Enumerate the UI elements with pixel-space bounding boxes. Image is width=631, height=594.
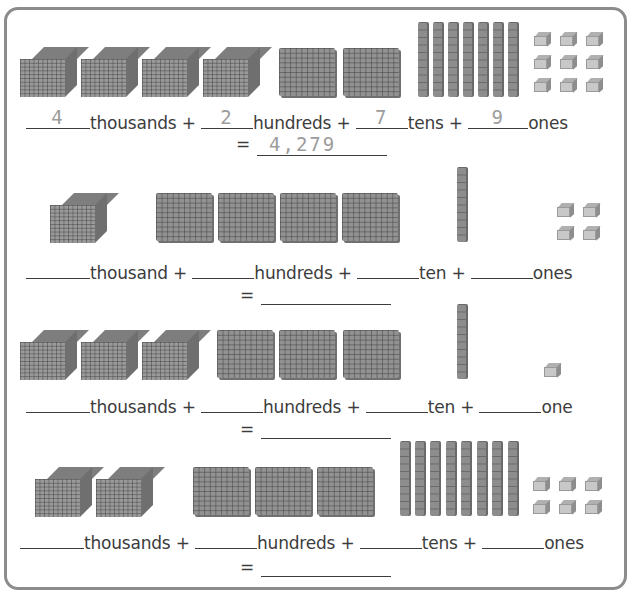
equals-sign: = (240, 419, 254, 439)
hundreds-answer-field[interactable] (195, 530, 257, 549)
ten-rod-icon (418, 22, 427, 97)
equals-sign: = (240, 285, 254, 305)
ones-answer-field[interactable]: 9 (468, 110, 528, 129)
ten-rod-icon (448, 22, 457, 97)
thousand-cube-icon (142, 47, 200, 97)
unit-cube-icon (534, 32, 551, 46)
thousands-label: thousands + (90, 113, 196, 133)
hundreds-label: hundreds + (257, 533, 355, 553)
unit-cube-icon (559, 500, 576, 514)
tens-label: tens + (422, 533, 477, 553)
ten-rod-icon (400, 441, 409, 516)
thousands-label: thousand + (90, 263, 187, 283)
total-answer-field[interactable]: 4,279 (257, 155, 387, 156)
hundred-flat-icon (279, 48, 335, 96)
hundred-flat-icon (255, 467, 311, 515)
ones-label: ones (528, 113, 568, 133)
unit-cube-icon (534, 55, 551, 69)
tens-answer-field[interactable] (366, 394, 428, 413)
thousand-cube-icon (20, 47, 78, 97)
tens-label: ten + (419, 263, 466, 283)
hundreds-label: hundreds + (254, 263, 352, 283)
ones-answer-field[interactable] (471, 260, 533, 279)
unit-cube-icon (583, 203, 600, 217)
tens-label: ten + (428, 397, 475, 417)
thousand-cube-icon (203, 47, 261, 97)
ones-label: ones (533, 263, 573, 283)
thousand-cube-icon (50, 193, 108, 243)
hundreds-label: hundreds + (253, 113, 351, 133)
thousand-cube-icon (96, 467, 154, 517)
ten-rod-icon (415, 441, 424, 516)
unit-cube-icon (585, 500, 602, 514)
unit-cube-icon (533, 500, 550, 514)
thousands-label: thousands + (84, 533, 190, 553)
row-3-equation: thousands + hundreds + ten + one (26, 394, 573, 417)
equals-sign: = (236, 134, 250, 154)
unit-cube-icon (560, 78, 577, 92)
ten-rod-icon (463, 22, 472, 97)
ones-answer-field[interactable] (482, 530, 544, 549)
ten-rod-icon (461, 441, 470, 516)
thousands-label: thousands + (90, 397, 196, 417)
unit-cube-icon (557, 226, 574, 240)
unit-cube-icon (586, 78, 603, 92)
thousand-cube-icon (20, 330, 78, 380)
thousands-answer-field[interactable] (20, 530, 84, 549)
equals-sign: = (240, 557, 254, 577)
hundred-flat-icon (217, 330, 273, 378)
thousands-answer-field[interactable]: 4 (26, 110, 90, 129)
unit-cube-icon (586, 32, 603, 46)
thousand-cube-icon (81, 330, 139, 380)
row-2-equation: thousand + hundreds + ten + ones (26, 260, 573, 283)
unit-cube-icon (533, 477, 550, 491)
tens-answer-field[interactable]: 7 (356, 110, 408, 129)
ten-rod-icon (457, 167, 466, 242)
hundred-flat-icon (317, 467, 373, 515)
tens-answer-field[interactable] (357, 260, 419, 279)
unit-cube-icon (586, 55, 603, 69)
ten-rod-icon (478, 22, 487, 97)
hundreds-label: hundreds + (263, 397, 361, 417)
ten-rod-icon (433, 22, 442, 97)
hundred-flat-icon (193, 467, 249, 515)
thousand-cube-icon (35, 467, 93, 517)
unit-cube-icon (560, 55, 577, 69)
hundred-flat-icon (279, 330, 335, 378)
unit-cube-icon (585, 477, 602, 491)
hundreds-answer-field[interactable]: 2 (201, 110, 253, 129)
row-1-equation: 4thousands + 2hundreds + 7tens + 9ones (26, 110, 568, 133)
unit-cube-icon (557, 203, 574, 217)
unit-cube-icon (544, 363, 561, 377)
hundred-flat-icon (156, 193, 212, 241)
ten-rod-icon (508, 22, 517, 97)
unit-cube-icon (534, 78, 551, 92)
unit-cube-icon (559, 477, 576, 491)
hundreds-answer-field[interactable] (192, 260, 254, 279)
ten-rod-icon (430, 441, 439, 516)
total-answer-field[interactable] (261, 438, 391, 439)
hundred-flat-icon (280, 193, 336, 241)
ones-answer-field[interactable] (479, 394, 541, 413)
ten-rod-icon (493, 22, 502, 97)
total-answer-field[interactable] (261, 576, 391, 577)
unit-cube-icon (583, 226, 600, 240)
total-answer-field[interactable] (261, 304, 391, 305)
thousands-answer-field[interactable] (26, 260, 90, 279)
ten-rod-icon (446, 441, 455, 516)
ten-rod-icon (457, 304, 466, 379)
thousand-cube-icon (81, 47, 139, 97)
tens-answer-field[interactable] (360, 530, 422, 549)
ten-rod-icon (477, 441, 486, 516)
thousands-answer-field[interactable] (26, 394, 90, 413)
ones-label: ones (544, 533, 584, 553)
thousand-cube-icon (142, 330, 200, 380)
tens-label: tens + (408, 113, 463, 133)
row-4-equation: thousands + hundreds + tens + ones (20, 530, 584, 553)
hundred-flat-icon (343, 330, 399, 378)
hundred-flat-icon (218, 193, 274, 241)
hundred-flat-icon (343, 48, 399, 96)
hundreds-answer-field[interactable] (201, 394, 263, 413)
ten-rod-icon (508, 441, 517, 516)
ten-rod-icon (492, 441, 501, 516)
